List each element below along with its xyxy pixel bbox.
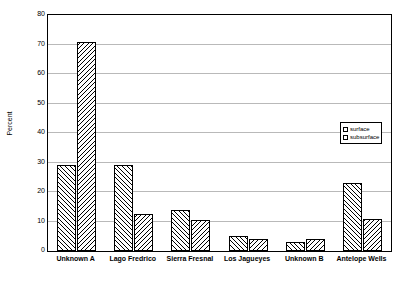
y-axis-tick-label: 60 (23, 69, 45, 76)
legend-swatch-surface-icon (343, 127, 348, 132)
x-axis-tick-label: Antelope Wells (333, 254, 390, 263)
y-axis-tick-label: 70 (23, 40, 45, 47)
bar-group (162, 15, 219, 251)
y-axis-tick-labels: 01020304050607080 (19, 14, 45, 252)
bar-subsurface (191, 220, 210, 251)
bar-group (105, 15, 162, 251)
bar-surface (229, 236, 248, 251)
legend-label-subsurface: subsurface (350, 133, 379, 141)
y-axis-title: Percent (6, 99, 13, 149)
bar-subsurface (134, 214, 153, 251)
x-axis-tick-label: Unknown A (47, 254, 104, 263)
legend-item-surface: surface (343, 125, 379, 133)
legend-label-surface: surface (350, 125, 370, 133)
bar-group (48, 15, 105, 251)
bar-surface (171, 210, 190, 251)
bar-subsurface (306, 239, 325, 251)
bar-group (220, 15, 277, 251)
chart-legend: surface subsurface (340, 122, 382, 144)
x-axis-tick-labels: Unknown ALago FredricoSierra FresnalLos … (47, 254, 392, 270)
legend-item-subsurface: subsurface (343, 133, 379, 141)
bar-subsurface (249, 239, 268, 251)
bar-subsurface (77, 42, 96, 251)
bar-surface (286, 242, 305, 251)
bar-subsurface (363, 219, 382, 251)
legend-swatch-subsurface-icon (343, 135, 348, 140)
y-axis-tick-label: 50 (23, 99, 45, 106)
bar-chart: Percent 01020304050607080 Unknown ALago … (0, 0, 415, 289)
bar-surface (57, 165, 76, 251)
bar-surface (114, 165, 133, 251)
bar-group (277, 15, 334, 251)
y-axis-tick-label: 80 (23, 10, 45, 17)
y-axis-tick-label: 10 (23, 217, 45, 224)
y-axis-tick-label: 30 (23, 158, 45, 165)
x-axis-tick-label: Lago Fredrico (104, 254, 161, 263)
y-axis-tick-label: 40 (23, 128, 45, 135)
bar-surface (343, 183, 362, 251)
y-axis-tick-label: 0 (23, 246, 45, 253)
y-axis-tick-label: 20 (23, 187, 45, 194)
x-axis-tick-label: Los Jagueyes (219, 254, 276, 263)
x-axis-tick-label: Sierra Fresnal (161, 254, 218, 263)
x-axis-tick-label: Unknown B (276, 254, 333, 263)
